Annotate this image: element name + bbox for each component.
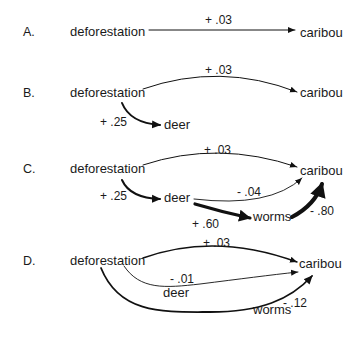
panel-label: C.: [23, 162, 36, 176]
coefficient-label: - .04: [237, 185, 261, 199]
node-deforestation: deforestation: [70, 253, 145, 268]
edge-deforestation-caribou: [143, 76, 297, 92]
panel-c: C. deforestation caribou deer worms + .0…: [23, 143, 343, 231]
coefficient-label: - .80: [310, 204, 334, 218]
edge-deforestation-deer: [122, 180, 160, 199]
node-deforestation: deforestation: [70, 161, 145, 176]
node-deer: deer: [164, 190, 191, 205]
node-caribou: caribou: [300, 85, 343, 100]
coefficient-label: + .25: [100, 189, 127, 203]
panel-label: D.: [23, 254, 36, 268]
coefficient-label: - .12: [283, 296, 307, 310]
node-worms: worms: [252, 209, 292, 224]
node-deer: deer: [163, 285, 190, 300]
node-deforestation: deforestation: [70, 85, 145, 100]
path-diagram: A. deforestation caribou + .03 B. defore…: [0, 0, 361, 337]
edge-deforestation-deer-caribou: [124, 266, 298, 286]
coefficient-label: + .60: [192, 217, 219, 231]
panel-d: D. deforestation caribou deer worms + .0…: [23, 236, 342, 317]
panel-a: A. deforestation caribou + .03: [23, 13, 343, 40]
edge-deer-worms: [195, 204, 250, 218]
coefficient-label: + .03: [203, 236, 230, 250]
coefficient-label: + .03: [205, 63, 232, 77]
coefficient-label: + .25: [100, 115, 127, 129]
panel-b: B. deforestation caribou deer + .03 + .2…: [23, 63, 343, 132]
node-deforestation: deforestation: [70, 24, 145, 39]
coefficient-label: + .03: [204, 143, 231, 157]
node-caribou: caribou: [299, 256, 342, 271]
node-caribou: caribou: [300, 163, 343, 178]
node-caribou: caribou: [300, 25, 343, 40]
node-deer: deer: [164, 117, 191, 132]
coefficient-label: + .03: [205, 13, 232, 27]
panel-label: A.: [23, 25, 35, 39]
edge-deforestation-deer: [122, 103, 160, 125]
coefficient-label: - .01: [170, 272, 194, 286]
panel-label: B.: [23, 86, 35, 100]
